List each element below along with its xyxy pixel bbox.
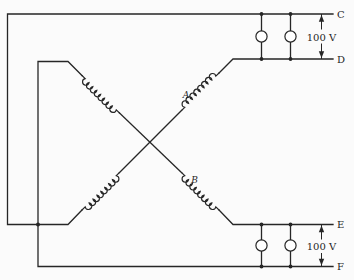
- wire-junction-to-coil-bottom-left: [38, 210, 82, 225]
- arrow-down-icon: [319, 51, 324, 58]
- junction-dot: [289, 57, 293, 61]
- coil-bottom-left: [82, 173, 123, 214]
- wire-c-rail-left-loop: [8, 14, 334, 225]
- junction-dot: [289, 265, 293, 269]
- lamp-icon-bottom-2: [285, 240, 296, 251]
- terminal-label-e: E: [337, 219, 344, 230]
- terminal-label-f: F: [337, 261, 344, 272]
- voltage-label-top: 100 V: [307, 32, 337, 43]
- lamp-icon-top-1: [256, 31, 267, 42]
- junction-dot: [289, 223, 293, 227]
- coil-top-left: [78, 76, 119, 117]
- wire-e-rail: [219, 210, 333, 225]
- junction-dot: [260, 57, 264, 61]
- voltage-label-bottom: 100 V: [307, 241, 337, 252]
- arrow-up-icon: [319, 15, 324, 22]
- junction-dot: [260, 265, 264, 269]
- coil-label-b: B: [190, 175, 198, 185]
- lamp-icon-bottom-1: [256, 240, 267, 251]
- coil-b: [178, 173, 219, 214]
- wire-inner-left-vertical: [38, 62, 82, 225]
- lamp-icon-top-2: [285, 31, 296, 42]
- junction-dot: [289, 12, 293, 16]
- coil-label-a: A: [182, 90, 190, 100]
- terminal-label-c: C: [337, 9, 345, 20]
- junction-dot-left: [36, 223, 40, 227]
- arrow-down-icon: [319, 259, 324, 266]
- circuit-diagram: C D E F 100 V 100 V A B: [0, 0, 354, 280]
- terminal-label-d: D: [337, 54, 345, 65]
- junction-dot: [260, 12, 264, 16]
- schematic-canvas: C D E F 100 V 100 V A B: [0, 0, 354, 280]
- arrow-up-icon: [319, 226, 324, 233]
- junction-dot: [260, 223, 264, 227]
- wire-d-rail: [219, 59, 333, 73]
